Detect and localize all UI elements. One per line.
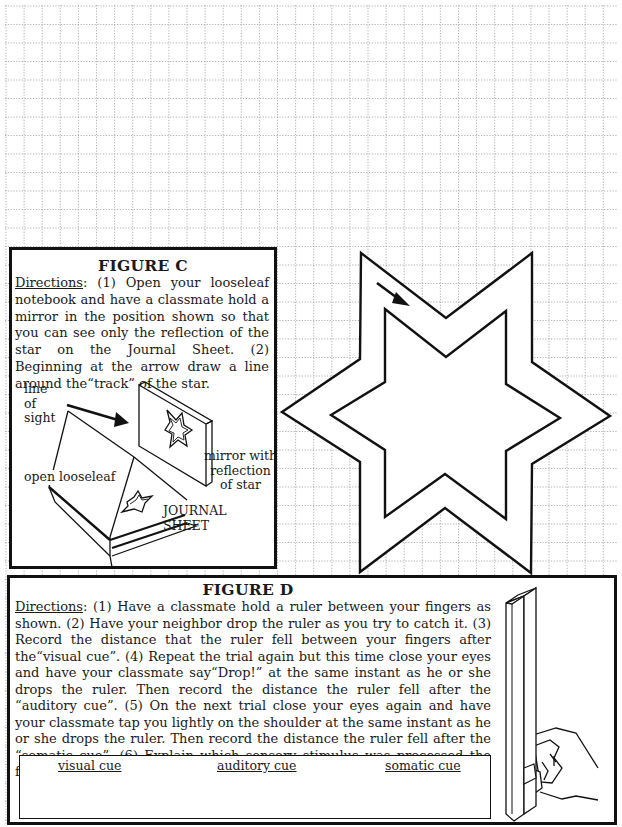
figure-d-title: FIGURE D [10,580,486,599]
column-visual-cue: visual cue [58,758,121,773]
column-auditory-cue: auditory cue [217,758,297,773]
answer-table: visual cue auditory cue somatic cue [19,755,491,819]
column-somatic-cue: somatic cue [385,758,461,773]
ruler-drop-illustration [490,578,614,822]
figure-d-directions: Directions: (1) Have a classmate hold a … [15,599,491,781]
directions-text: : (1) Have a classmate hold a ruler betw… [15,599,491,779]
figure-d-panel: FIGURE D Directions: (1) Have a classmat… [7,575,617,825]
directions-label: Directions [15,599,83,614]
